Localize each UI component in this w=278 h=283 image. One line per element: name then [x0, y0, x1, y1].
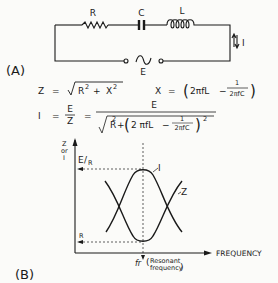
level-low-label: R: [79, 232, 84, 240]
resonance-graph: [73, 138, 213, 260]
eq-z-plus: +: [93, 86, 101, 96]
eq-x-minus: −: [219, 86, 227, 96]
r-arrow-icon: [77, 240, 83, 244]
rlc-diagram: R C L E I (A) Z = R 2 + X 2 X = ( 2πfL −…: [0, 0, 278, 283]
eq-i-lhs: I: [38, 111, 41, 121]
panel-b-label: (B): [15, 267, 34, 282]
eq-i-den-term1: 2 πfL: [131, 120, 153, 130]
paren-close-2: ): [195, 116, 201, 134]
eq-z-r: R: [78, 86, 84, 96]
paren-close: ): [250, 82, 256, 100]
eq-z-r-exp: 2: [85, 83, 89, 91]
eq-i-den-small-num: 1: [180, 115, 184, 123]
note-paren-close: ): [180, 262, 184, 272]
current-curve-label: I: [158, 163, 161, 173]
eq-z-x: X: [106, 86, 112, 96]
eq-x-lhs: X: [155, 86, 161, 96]
inductor-label: L: [179, 6, 184, 16]
er-arrow-icon: [77, 167, 83, 171]
eq-x-den: 2πfC: [230, 90, 245, 98]
note-paren-open: (: [146, 257, 150, 267]
panel-a-label: (A): [6, 63, 25, 78]
wire-left: [55, 25, 124, 61]
x-axis-arrow-icon: [204, 251, 212, 256]
eq-x-term1: 2πfL: [190, 86, 209, 96]
terminal-right: [159, 59, 163, 63]
eq-z-equals: =: [52, 86, 60, 96]
eq-i-outer-exp: 2: [203, 115, 207, 123]
eq-i-num: E: [151, 100, 157, 110]
eq-i-den-minus: −: [162, 120, 170, 130]
eq-i-den-small-den: 2πfC: [175, 124, 190, 132]
resonance-symbol: fr: [135, 259, 142, 268]
ac-source-symbol: [136, 56, 151, 65]
wire-right: [163, 25, 230, 61]
reactance-equation: X = ( 2πfL − 1 2πfC ): [155, 79, 256, 100]
eq-i-equals-1: =: [52, 111, 60, 121]
y-axis-label-i: I: [63, 154, 65, 162]
eq-i-frac-num: E: [67, 104, 73, 114]
inductor-symbol: [167, 20, 200, 28]
resistor-symbol: [82, 22, 108, 28]
eq-z-lhs: Z: [38, 86, 44, 96]
x-axis-label: FREQUENCY: [216, 249, 262, 258]
eq-x-equals: =: [168, 86, 176, 96]
circuit: [55, 20, 239, 65]
eq-i-den-r-exp: 2: [112, 115, 116, 123]
source-label: E: [140, 67, 146, 77]
terminal-left: [124, 59, 128, 63]
y-axis-arrow-icon: [73, 138, 78, 146]
impedance-equation: Z = R 2 + X 2: [38, 82, 123, 96]
fr-arrow-icon: [141, 255, 145, 260]
eq-i-equals-2: =: [84, 111, 92, 121]
resistor-label: R: [90, 8, 96, 18]
eq-i-frac-den: Z: [67, 116, 73, 126]
eq-x-num: 1: [235, 79, 239, 87]
eq-z-x-exp: 2: [113, 83, 117, 91]
paren-open: (: [183, 82, 189, 100]
impedance-curve-label: Z: [181, 187, 187, 197]
current-equation: I = E Z = E R 2 + ( 2 πfL − 1 2πfC ) 2: [38, 100, 216, 134]
paren-open-2: (: [124, 116, 130, 134]
resonance-note-line2: frequency: [150, 264, 183, 272]
capacitor-label: C: [138, 8, 144, 18]
current-label: I: [242, 38, 245, 48]
level-high-den: R: [88, 159, 93, 167]
